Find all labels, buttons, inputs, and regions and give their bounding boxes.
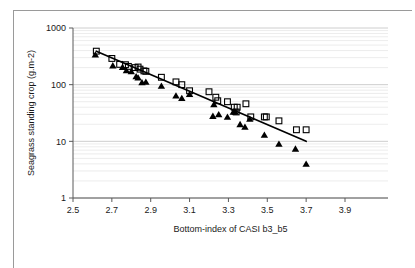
series-filled-triangle [92, 51, 310, 167]
x-tick-label: 3.9 [339, 205, 352, 215]
x-tick-label: 2.7 [106, 205, 119, 215]
y-tick-label: 1 [61, 193, 66, 203]
x-tick-label: 3.7 [300, 205, 313, 215]
y-tick-label: 10 [56, 137, 66, 147]
marker-open-square [263, 114, 269, 120]
y-axis-ticks: 1000100101 [46, 23, 73, 203]
x-tick-label: 2.9 [144, 205, 157, 215]
marker-filled-triangle [209, 113, 216, 119]
x-tick-label: 2.5 [67, 205, 80, 215]
trendline [96, 51, 306, 141]
y-tick-label: 1000 [46, 23, 66, 33]
x-tick-label: 3.3 [222, 205, 235, 215]
axes [73, 28, 388, 198]
marker-open-square [294, 127, 300, 133]
x-axis-title: Bottom-index of CASI b3_b5 [173, 224, 287, 234]
marker-filled-triangle [261, 131, 268, 137]
marker-filled-triangle [109, 62, 116, 68]
x-tick-label: 3.5 [261, 205, 274, 215]
marker-filled-triangle [158, 83, 165, 89]
y-axis-title: Seagrass standing crop (g.m-2) [26, 50, 36, 176]
gridlines [73, 28, 388, 198]
marker-filled-triangle [292, 145, 299, 151]
x-tick-label: 3.1 [183, 205, 196, 215]
marker-open-square [261, 114, 267, 120]
y-tick-label: 100 [51, 80, 66, 90]
x-axis-ticks: 2.52.72.93.13.33.53.73.9 [67, 198, 352, 215]
marker-open-square [276, 118, 282, 124]
marker-open-square [303, 127, 309, 133]
